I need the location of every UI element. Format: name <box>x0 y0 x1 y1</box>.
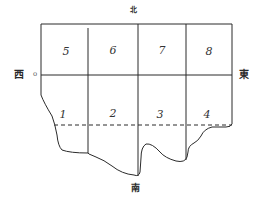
plot-map-diagram: 北 西 o 東 南 5 6 7 8 1 2 3 4 <box>0 0 259 206</box>
plot-5-label: 5 <box>63 46 70 57</box>
outer-boundary <box>41 24 232 176</box>
plot-8-label: 8 <box>206 46 213 57</box>
plot-4-label: 4 <box>204 109 211 120</box>
north-label: 北 <box>130 6 137 13</box>
east-label: 東 <box>239 70 249 80</box>
plot-3-label: 3 <box>157 109 164 120</box>
plot-2-label: 2 <box>110 108 117 119</box>
west-label: 西 <box>14 70 24 80</box>
plot-7-label: 7 <box>159 45 166 56</box>
plot-6-label: 6 <box>110 45 117 56</box>
west-marker: o <box>33 71 37 78</box>
south-label: 南 <box>131 184 140 193</box>
plot-map-lines <box>0 0 259 206</box>
plot-1-label: 1 <box>60 109 67 120</box>
